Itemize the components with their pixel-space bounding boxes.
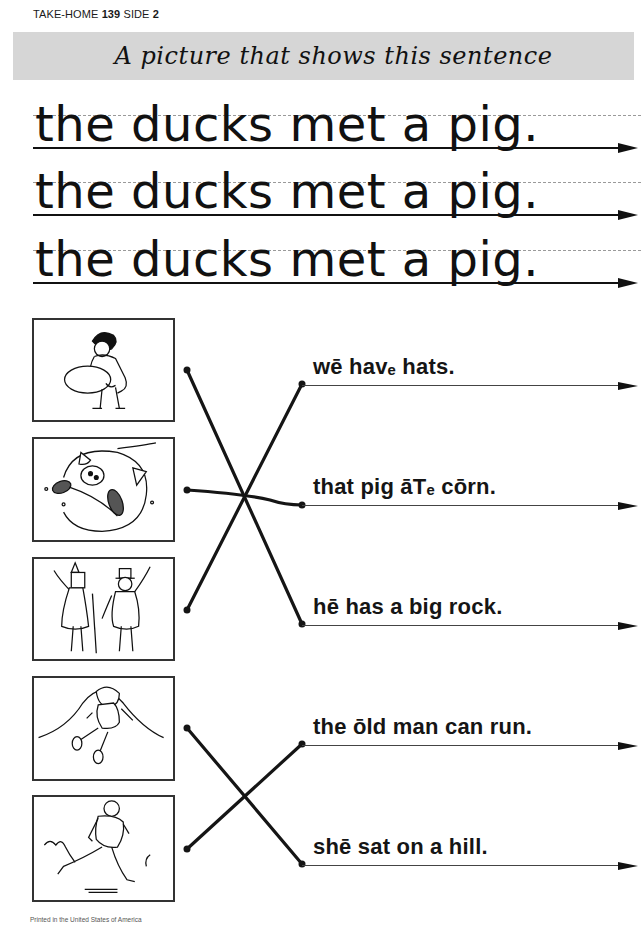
banner-title: A picture that shows this sentence [95,42,553,70]
girls-with-hats-icon [34,559,173,659]
picture-girls-with-hats[interactable] [32,557,175,661]
arrow-right-icon [618,742,638,750]
answer-text: hē has a big rock. [313,594,502,620]
answer-sentence-3[interactable]: hē has a big rock. [302,586,641,626]
writing-sentence: the ducks met a pig. [35,235,539,283]
answer-text: wē havₑ hats. [313,354,455,380]
writing-row-3: the ducks met a pig. [33,223,641,293]
arrow-right-icon [618,862,638,870]
baseline [33,214,618,216]
match-line-5-to-4 [187,744,302,849]
girl-on-hill-icon [34,678,173,779]
footer-print-note: Printed in the United States of America [30,916,142,923]
answer-sentence-1[interactable]: wē havₑ hats. [302,346,641,386]
instruction-banner: A picture that shows this sentence [13,32,634,80]
answer-line [302,625,620,626]
answer-line [302,505,620,506]
match-line-3-to-1 [187,384,302,610]
answer-line [302,745,620,746]
answer-line [302,385,620,386]
arrow-right-icon [618,622,638,630]
picture-girl-on-hill[interactable] [32,676,175,781]
writing-row-2: the ducks met a pig. [33,155,641,225]
answer-text: shē sat on a hill. [313,834,488,860]
picture-old-man-running[interactable] [32,795,175,902]
boy-lifting-rock-icon [34,320,173,420]
baseline [33,147,618,149]
writing-row-1: the ducks met a pig. [33,88,641,158]
arrow-right-icon [618,382,638,390]
arrow-right-icon [618,502,638,510]
header-number: 139 [102,8,121,20]
writing-sentence: the ducks met a pig. [35,167,539,215]
match-line-2-to-2 [187,490,302,505]
pig-eating-corn-icon [34,439,173,540]
picture-boy-lifting-rock[interactable] [32,318,175,422]
match-line-1-to-3 [187,370,302,624]
worksheet-header: TAKE-HOME 139 SIDE 2 [33,8,159,20]
arrow-right-icon [618,278,638,288]
answer-sentence-4[interactable]: the ōld man can run. [302,706,641,746]
writing-sentence: the ducks met a pig. [35,100,539,148]
arrow-right-icon [618,210,638,220]
header-label: TAKE-HOME [33,8,98,20]
answer-line [302,865,620,866]
answer-text: the ōld man can run. [313,714,532,740]
match-line-4-to-5 [187,728,302,864]
answer-text: that pig āTₑ cōrn. [313,474,496,500]
old-man-running-icon [34,797,173,900]
picture-pig-eating-corn[interactable] [32,437,175,542]
answer-sentence-5[interactable]: shē sat on a hill. [302,826,641,866]
header-side-number: 2 [153,8,159,20]
header-side-label: SIDE [123,8,149,20]
answer-sentence-2[interactable]: that pig āTₑ cōrn. [302,466,641,506]
baseline [33,282,618,284]
arrow-right-icon [618,143,638,153]
